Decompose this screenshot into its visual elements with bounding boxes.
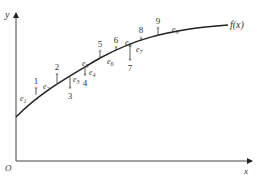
svg-text:e6: e6	[107, 57, 114, 67]
fitted-curve	[16, 25, 228, 117]
svg-text:2: 2	[55, 62, 60, 72]
data-point-7: × 7 e7	[128, 45, 144, 73]
x-axis-label: x	[243, 166, 248, 176]
data-point-3: × 3 e3	[68, 75, 80, 101]
svg-text:3: 3	[68, 91, 73, 101]
data-point-9: × 9 e9	[156, 16, 179, 35]
svg-text:5: 5	[98, 39, 103, 49]
curve-label: f(x)	[230, 19, 245, 31]
data-point-5: × 5 e5	[82, 39, 103, 69]
svg-text:×: ×	[139, 34, 143, 42]
svg-text:7: 7	[128, 63, 133, 73]
y-axis-label: y	[4, 9, 10, 20]
curve-fit-diagram: y x O f(x) × 1 e1 × 2 e2 × 3 e3 × 4 e4 ×…	[0, 0, 257, 183]
svg-text:e2: e2	[43, 82, 50, 92]
svg-text:e7: e7	[136, 45, 144, 55]
svg-text:e8: e8	[125, 38, 132, 48]
svg-text:e9: e9	[172, 25, 179, 35]
data-point-8: × 8 e8	[125, 25, 144, 48]
svg-text:6: 6	[114, 35, 119, 45]
svg-text:e1: e1	[20, 94, 27, 104]
svg-text:e3: e3	[73, 75, 80, 85]
svg-text:e4: e4	[89, 68, 96, 78]
origin-label: O	[5, 163, 12, 173]
svg-text:8: 8	[139, 25, 144, 35]
svg-text:1: 1	[34, 76, 39, 86]
svg-text:e5: e5	[82, 59, 89, 69]
data-point-4: × 4 e4	[83, 68, 96, 88]
svg-text:4: 4	[83, 78, 88, 88]
svg-text:9: 9	[156, 16, 161, 26]
